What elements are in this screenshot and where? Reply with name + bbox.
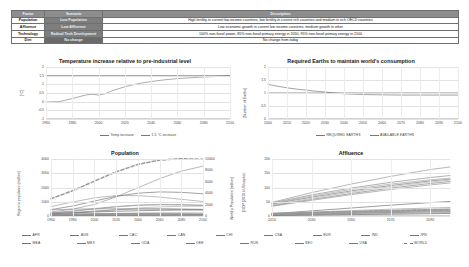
x-axis-tick: 2060 xyxy=(378,121,386,125)
cell-factor: Affluence xyxy=(12,24,45,31)
cell-scenario: Low Population xyxy=(45,17,103,24)
gridline xyxy=(46,67,230,68)
legend-swatch xyxy=(295,243,304,244)
legend-swatch xyxy=(410,235,419,236)
x-axis-tick: 2040 xyxy=(147,121,155,125)
table-row: Diet No change No change from today xyxy=(12,37,459,44)
y-axis-tick: 2 xyxy=(238,65,266,69)
x-axis-tick: 2080 xyxy=(416,121,424,125)
gridline-v xyxy=(430,159,431,216)
header-scenario: Scenario xyxy=(45,11,103,18)
legend-item-oee: OEE xyxy=(186,241,241,245)
cell-description: High fertility in current low income cou… xyxy=(103,17,459,24)
y-axis-tick: 100 xyxy=(238,186,270,190)
y-axis-tick-right: 8000 xyxy=(205,168,213,172)
legend-item-csa: CSA xyxy=(264,233,312,237)
legend-label: MEA xyxy=(33,241,41,245)
x-axis-tick: 2050 xyxy=(359,121,367,125)
gridline-v xyxy=(204,67,205,119)
legend-swatch xyxy=(22,235,31,236)
y-axis-tick: 0 xyxy=(14,214,49,218)
gridline xyxy=(272,202,450,203)
x-axis-tick: 2010 xyxy=(283,121,291,125)
x-axis-tick: 1960 xyxy=(47,218,55,222)
gridline-v xyxy=(391,159,392,216)
chart-title: Required Earths to maintain world's cons… xyxy=(238,58,464,64)
legend-item-afr: AFR xyxy=(22,233,70,237)
gridline xyxy=(46,76,230,77)
x-axis-tick: 2070 xyxy=(397,121,405,125)
y-axis-tick: 150 xyxy=(238,171,270,175)
gridline xyxy=(51,173,203,174)
x-axis-tick: 1960 xyxy=(42,121,50,125)
legend-label: OEE xyxy=(196,241,203,245)
legend-label: EUR xyxy=(323,233,330,237)
y-axis-tick: 4000 xyxy=(14,157,49,161)
gridline xyxy=(272,159,450,160)
table-row: Affluence Low Affluence Low economic gro… xyxy=(12,24,459,31)
legend-label: AFR xyxy=(33,233,40,237)
gridline xyxy=(272,188,450,189)
x-axis-tick: 2100 xyxy=(454,121,462,125)
chart-title: Affluence xyxy=(238,150,464,156)
x-axis-tick: 2030 xyxy=(308,218,316,222)
gridline-v xyxy=(46,67,47,119)
gridline-v xyxy=(203,159,204,216)
legend-label: CAN xyxy=(178,233,185,237)
x-axis-tick: 2000 xyxy=(95,121,103,125)
legend-item-usa: USA xyxy=(349,241,404,245)
y-axis-label-right: World's Population [million] xyxy=(230,177,234,220)
y-axis-tick: 200 xyxy=(238,157,270,161)
legend-item-ind: IND xyxy=(361,233,409,237)
cell-factor: Population xyxy=(12,17,45,24)
x-axis-tick: 2070 xyxy=(387,218,395,222)
gridline-v xyxy=(160,159,161,216)
gridline-v xyxy=(272,159,273,216)
y-axis-tick-right: 0 xyxy=(205,214,207,218)
legend-item-jpn: JPN xyxy=(410,233,458,237)
legend-item-world: WORLD xyxy=(404,241,459,245)
x-axis-tick: 2040 xyxy=(134,218,142,222)
x-axis-tick: 2000 xyxy=(264,121,272,125)
legend-item-mea: MEA xyxy=(22,241,77,245)
legend-label: IND xyxy=(372,233,378,237)
gridline-v xyxy=(99,67,100,119)
plot-area xyxy=(268,67,458,119)
legend-item-mex: MEX xyxy=(77,241,132,245)
legend-swatch xyxy=(361,235,370,236)
x-axis-tick: 1980 xyxy=(68,121,76,125)
gridline xyxy=(51,188,203,189)
legend-label: SEO xyxy=(305,241,312,245)
gridline-v xyxy=(73,159,74,216)
gridline-v xyxy=(312,159,313,216)
legend-swatch xyxy=(313,235,322,236)
legend-item-oda: ODA xyxy=(131,241,186,245)
y-axis-tick-right: 10000 xyxy=(205,157,215,161)
legend-swatch xyxy=(349,243,358,244)
gridline xyxy=(272,173,450,174)
legend-label: CAC xyxy=(129,233,136,237)
chart-title: Population xyxy=(14,150,236,156)
gridline-v xyxy=(382,67,383,119)
y-axis-label: (GDP (2010 kUS/capita) xyxy=(242,173,246,212)
region-legend-row-2: MEAMEXODAOEERUSSEOUSAWORLD xyxy=(22,241,458,245)
legend-item: Temp increase xyxy=(100,133,134,137)
chart-legend: REQUIRED EARTHSAVAILABLE EARTHS xyxy=(272,133,458,137)
y-axis-tick: 1000 xyxy=(14,200,49,204)
table-header-row: Factor Scenario Description xyxy=(12,11,459,18)
x-axis-tick: 2080 xyxy=(200,121,208,125)
x-axis-tick: 2080 xyxy=(177,218,185,222)
legend-label: REQUIRED EARTHS xyxy=(326,133,360,137)
cell-scenario: Low Affluence xyxy=(45,24,103,31)
gridline-v xyxy=(306,67,307,119)
gridline-v xyxy=(439,67,440,119)
legend-swatch xyxy=(77,243,86,244)
y-axis-tick: 0 xyxy=(238,214,270,218)
x-axis-tick: 2000 xyxy=(91,218,99,222)
gridline-v xyxy=(287,67,288,119)
legend-item-seo: SEO xyxy=(295,241,350,245)
cell-description: Low economic growth in current low incom… xyxy=(103,24,459,31)
gridline-v xyxy=(151,67,152,119)
chart-title: Temperature increase relative to pre-ind… xyxy=(14,58,236,64)
y-axis-tick: 2000 xyxy=(14,186,49,190)
